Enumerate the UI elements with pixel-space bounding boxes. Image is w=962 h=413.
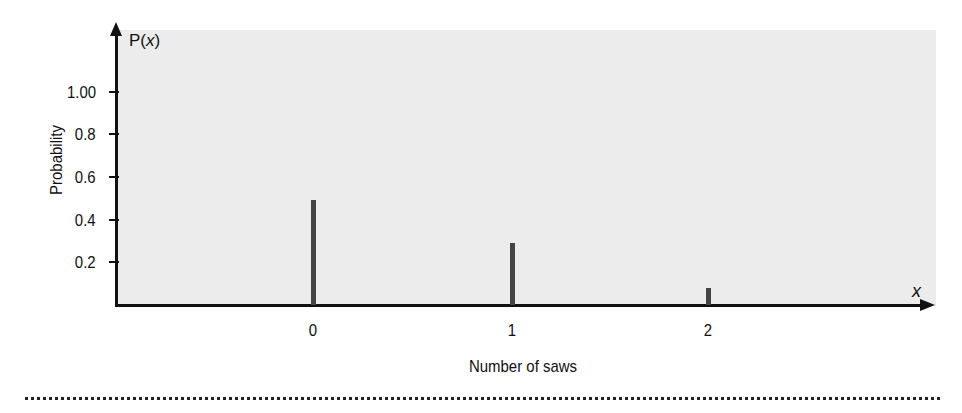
y-tick-mark [109, 91, 119, 93]
y-tick-label: 0.6 [75, 169, 96, 186]
x-tick-label: 2 [695, 322, 721, 339]
x-axis-label: Number of saws [435, 357, 611, 377]
x-tick-label: 0 [300, 322, 326, 339]
x-axis-arrow-icon [920, 299, 935, 311]
x-axis-variable: x [912, 281, 921, 302]
y-tick-label: 0.2 [75, 254, 96, 271]
y-tick-label: 0.4 [75, 212, 96, 229]
x-tick-label: 1 [499, 322, 525, 339]
y-tick-mark [109, 176, 119, 178]
bar-0 [311, 200, 316, 305]
y-tick-mark [109, 261, 119, 263]
bar-2 [706, 288, 711, 305]
bar-1 [510, 243, 515, 305]
y-axis-label: Probability [47, 107, 67, 213]
x-axis-line [115, 304, 927, 307]
y-tick-label: 1.00 [67, 84, 96, 101]
y-tick-mark [109, 133, 119, 135]
dotted-divider [25, 397, 940, 400]
y-axis-title: P(x) [129, 31, 160, 51]
y-axis-arrow-icon [110, 22, 122, 36]
y-axis-line [115, 30, 118, 307]
y-tick-label: 0.8 [75, 126, 96, 143]
y-tick-mark [109, 219, 119, 221]
plot-area [118, 30, 936, 306]
